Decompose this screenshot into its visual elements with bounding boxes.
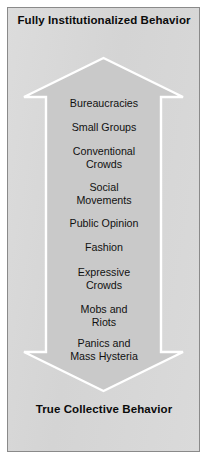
stage-line: Conventional: [46, 145, 162, 158]
stage-line: Public Opinion: [46, 217, 162, 230]
bottom-cap-line-1: True: [36, 403, 61, 415]
stage-label-conventional-crowds: Conventional Crowds: [46, 145, 162, 170]
bottom-cap-line-2: Collective: [64, 403, 119, 415]
figure-labels: Fully Institutionalized Behavior Bureauc…: [0, 0, 208, 460]
stage-label-bureaucracies: Bureaucracies: [46, 97, 162, 110]
stage-line: Mass Hysteria: [46, 350, 162, 363]
top-cap-line-3: Behavior: [141, 14, 191, 26]
stage-label-social-movements: Social Movements: [46, 181, 162, 206]
stage-line: Panics and: [46, 337, 162, 350]
stage-line: Riots: [46, 316, 162, 329]
stage-label-panics-and-mass-hysteria: Panics and Mass Hysteria: [46, 337, 162, 362]
bottom-cap-label: True Collective Behavior: [0, 402, 208, 416]
stage-line: Movements: [46, 194, 162, 207]
stage-label-small-groups: Small Groups: [46, 121, 162, 134]
stage-label-mobs-and-riots: Mobs and Riots: [46, 303, 162, 328]
stage-line: Bureaucracies: [46, 97, 162, 110]
stage-line: Crowds: [46, 158, 162, 171]
top-cap-line-2: Institutionalized: [48, 14, 137, 26]
bottom-cap-line-3: Behavior: [122, 403, 172, 415]
collective-behavior-continuum-figure: Fully Institutionalized Behavior Bureauc…: [0, 0, 208, 460]
stage-line: Fashion: [46, 241, 162, 254]
stage-line: Mobs and: [46, 303, 162, 316]
stage-line: Social: [46, 181, 162, 194]
stage-label-fashion: Fashion: [46, 241, 162, 254]
stage-line: Crowds: [46, 279, 162, 292]
stage-label-expressive-crowds: Expressive Crowds: [46, 266, 162, 291]
stage-line: Expressive: [46, 266, 162, 279]
top-cap-label: Fully Institutionalized Behavior: [0, 13, 208, 27]
stage-line: Small Groups: [46, 121, 162, 134]
top-cap-line-1: Fully: [17, 14, 44, 26]
stage-label-public-opinion: Public Opinion: [46, 217, 162, 230]
